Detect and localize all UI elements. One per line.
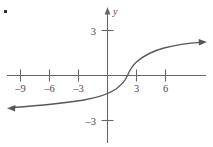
graph-figure: –9 –6 –3 3 6 3 –3 y — [0, 0, 213, 147]
curve-left-arrowhead-icon — [7, 105, 16, 112]
x-tick-label-pos-3: 3 — [134, 83, 139, 94]
y-tick-label-pos-3: 3 — [91, 26, 96, 37]
y-tick-label-neg-3: –3 — [85, 116, 97, 127]
x-tick-label-neg-3: –3 — [72, 83, 84, 94]
bullet-marker-icon — [4, 10, 7, 13]
x-tick-label-neg-9: –9 — [14, 83, 26, 94]
y-axis-arrowhead-icon — [105, 7, 111, 15]
coordinate-plane: –9 –6 –3 3 6 3 –3 y — [0, 0, 213, 147]
x-tick-label-pos-6: 6 — [163, 83, 168, 94]
curve-right-arrowhead-icon — [199, 39, 207, 46]
x-tick-label-neg-6: –6 — [43, 83, 55, 94]
y-axis-label: y — [112, 6, 118, 17]
